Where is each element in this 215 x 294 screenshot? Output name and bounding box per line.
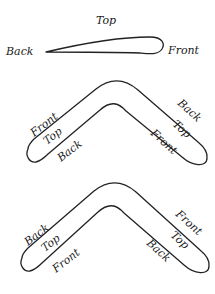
- airfoil-cross-section: Top Back Front: [5, 14, 200, 58]
- airfoil-label-back: Back: [5, 45, 34, 58]
- boomerang-2: Back Top Front Front Top Back: [21, 183, 209, 276]
- boomerang-2-label-right-inner: Back: [143, 236, 173, 265]
- boomerang-2-label-right-middle: Top: [168, 229, 192, 252]
- airfoil-label-front: Front: [167, 44, 200, 57]
- airfoil-outline: [46, 37, 163, 54]
- boomerang-2-outline: [21, 183, 209, 273]
- boomerang-1-label-left-inner: Back: [54, 137, 85, 165]
- airfoil-label-top: Top: [96, 14, 116, 27]
- boomerang-diagram: Top Back Front Front Top Back Back Top F…: [0, 0, 215, 294]
- boomerang-1: Front Top Back Back Top Front: [27, 81, 207, 165]
- boomerang-2-label-left-inner: Front: [49, 246, 83, 276]
